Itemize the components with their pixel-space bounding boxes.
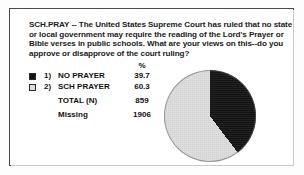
table-row: 2) SCH PRAYER 60.3 (29, 82, 164, 93)
pie-chart-slice-no-prayer-value: 39.7 (164, 70, 165, 71)
missing-label: Missing (58, 110, 88, 119)
missing-value: 1906 (125, 110, 159, 119)
option-percent-no-prayer: 39.7 (125, 71, 159, 80)
frequency-table: % 1) NO PRAYER 39.7 2) SCH PRAYER 60.3 T… (29, 61, 164, 124)
option-code-2: 2) (44, 82, 51, 91)
legend-swatch-no-prayer (29, 73, 36, 80)
table-row: 1) NO PRAYER 39.7 (29, 71, 164, 82)
option-label-no-prayer: NO PRAYER (58, 71, 105, 80)
pie-chart-slice-sch-prayer-value: 60.3 (164, 70, 165, 71)
table-row-missing: Missing 1906 (29, 110, 164, 124)
option-percent-sch-prayer: 60.3 (125, 82, 159, 91)
pie-chart: 39.7 60.3 (164, 70, 256, 162)
total-label: TOTAL (N) (58, 96, 97, 105)
option-code-1: 1) (44, 71, 51, 80)
question-text: SCH.PRAY -- The United States Supreme Co… (29, 20, 294, 58)
total-value: 859 (125, 96, 159, 105)
table-row-total: TOTAL (N) 859 (29, 96, 164, 110)
percent-column-header: % (125, 61, 159, 70)
pie-chart-slices (164, 70, 256, 162)
survey-codebook-page: SCH.PRAY -- The United States Supreme Co… (0, 0, 304, 175)
table-header-row: % (29, 61, 164, 71)
option-label-sch-prayer: SCH PRAYER (58, 82, 110, 91)
content-frame: SCH.PRAY -- The United States Supreme Co… (9, 8, 294, 166)
legend-swatch-sch-prayer (29, 84, 36, 91)
